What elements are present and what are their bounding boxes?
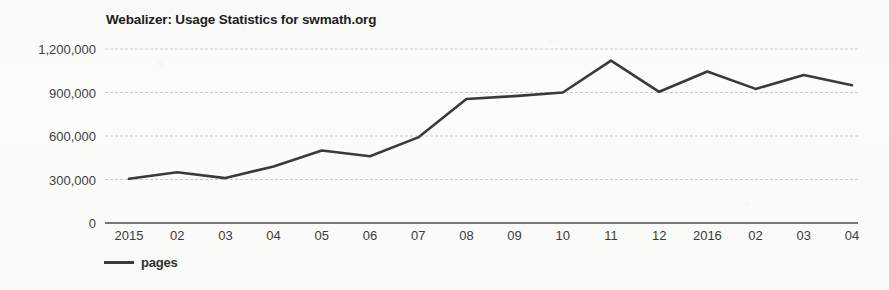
x-tick-label: 02 bbox=[748, 228, 762, 243]
data-series-lines bbox=[129, 61, 852, 179]
legend-label-pages: pages bbox=[141, 255, 178, 270]
x-tick-label: 05 bbox=[315, 228, 329, 243]
x-tick-label: 06 bbox=[363, 228, 377, 243]
y-tick-label: 300,000 bbox=[49, 172, 96, 187]
y-tick-label: 1,200,000 bbox=[38, 42, 96, 57]
x-tick-label: 07 bbox=[411, 228, 425, 243]
y-tick-label: 900,000 bbox=[49, 85, 96, 100]
x-tick-label: 10 bbox=[556, 228, 570, 243]
chart-legend: pages bbox=[104, 255, 178, 270]
legend-line-swatch-pages bbox=[104, 261, 134, 264]
x-tick-label: 12 bbox=[652, 228, 666, 243]
x-tick-label: 2015 bbox=[115, 228, 144, 243]
gridlines bbox=[105, 49, 858, 180]
series-line-pages bbox=[129, 61, 852, 179]
x-tick-label: 09 bbox=[507, 228, 521, 243]
chart-figure: Webalizer: Usage Statistics for swmath.o… bbox=[0, 0, 889, 290]
x-tick-label: 2016 bbox=[693, 228, 722, 243]
x-tick-label: 03 bbox=[218, 228, 232, 243]
x-tick-label: 02 bbox=[170, 228, 184, 243]
y-tick-label: 600,000 bbox=[49, 129, 96, 144]
x-tick-label: 08 bbox=[459, 228, 473, 243]
x-tick-label: 03 bbox=[797, 228, 811, 243]
x-tick-label: 04 bbox=[266, 228, 280, 243]
x-tick-label: 04 bbox=[845, 228, 859, 243]
x-axis: 201502030405060708091011122016020304 bbox=[0, 228, 889, 250]
x-tick-label: 11 bbox=[604, 228, 618, 243]
